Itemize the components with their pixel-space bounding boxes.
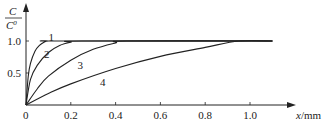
curve-3 bbox=[26, 41, 272, 105]
x-tick-label: 0.6 bbox=[154, 109, 168, 121]
x-axis-label: x/mm bbox=[295, 109, 322, 121]
axes bbox=[23, 3, 296, 108]
curve-label-3: 3 bbox=[78, 59, 84, 71]
origin-label: 0 bbox=[23, 109, 29, 121]
curve-2 bbox=[26, 41, 272, 105]
x-tick-label: 0.4 bbox=[109, 109, 123, 121]
x-tick-label: 1.0 bbox=[243, 109, 257, 121]
y-axis-arrow-icon bbox=[23, 3, 29, 12]
y-label-denominator: C0 bbox=[6, 19, 17, 31]
x-axis-arrow-icon bbox=[287, 102, 296, 108]
y-tick-label: 0.5 bbox=[7, 67, 21, 79]
curve-4 bbox=[26, 41, 272, 105]
x-tick-label: 0.8 bbox=[198, 109, 212, 121]
y-label-numerator: C bbox=[9, 5, 17, 17]
y-tick-label: 1.0 bbox=[7, 35, 21, 47]
x-tick-label: 0.2 bbox=[64, 109, 78, 121]
concentration-chart: 0.20.40.60.81.00.51.0 1234 C C0 0 x/mm bbox=[0, 0, 330, 126]
curve-label-2: 2 bbox=[44, 48, 50, 60]
curve-label-1: 1 bbox=[48, 31, 54, 43]
curve-1 bbox=[26, 41, 272, 105]
curve-label-4: 4 bbox=[100, 76, 106, 88]
